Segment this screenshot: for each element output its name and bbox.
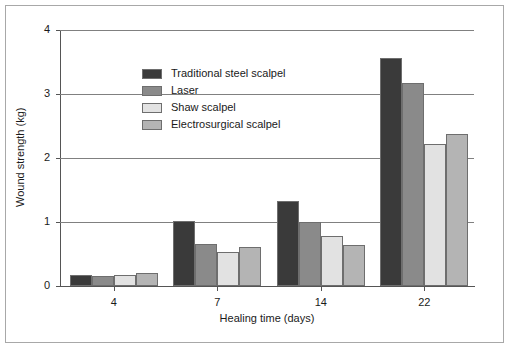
y-axis-label-wrap: Wound strength (kg) bbox=[16, 95, 30, 235]
legend-swatch bbox=[142, 69, 162, 79]
legend-item: Shaw scalpel bbox=[142, 100, 286, 115]
y-tick-label-1: 1 bbox=[24, 216, 50, 227]
y-tick-label-2: 2 bbox=[24, 152, 50, 163]
x-tick-label-22: 22 bbox=[404, 296, 444, 308]
legend-swatch bbox=[142, 86, 162, 96]
bar bbox=[424, 144, 446, 286]
y-tick-label-0: 0 bbox=[24, 280, 50, 291]
y-tick-mark-1 bbox=[56, 222, 60, 223]
bar bbox=[195, 244, 217, 286]
legend-item: Electrosurgical scalpel bbox=[142, 117, 286, 132]
x-tick-mark-22 bbox=[424, 286, 425, 291]
x-tick-mark-4 bbox=[114, 286, 115, 291]
x-tick-label-4: 4 bbox=[94, 296, 134, 308]
x-tick-label-14: 14 bbox=[301, 296, 341, 308]
x-tick-mark-7 bbox=[217, 286, 218, 291]
bar bbox=[217, 252, 239, 286]
bar bbox=[239, 247, 261, 286]
bar bbox=[70, 275, 92, 286]
bar bbox=[136, 273, 158, 286]
bar bbox=[402, 83, 424, 286]
x-axis-line bbox=[60, 286, 475, 287]
legend-label: Shaw scalpel bbox=[171, 102, 236, 113]
gridline-4 bbox=[60, 30, 474, 31]
bar bbox=[380, 58, 402, 286]
x-axis-label: Healing time (days) bbox=[60, 312, 474, 324]
legend-swatch bbox=[142, 120, 162, 130]
legend-swatch bbox=[142, 103, 162, 113]
bar bbox=[321, 236, 343, 286]
bar bbox=[92, 276, 114, 286]
y-tick-label-3: 3 bbox=[24, 88, 50, 99]
legend: Traditional steel scalpelLaserShaw scalp… bbox=[142, 66, 286, 134]
legend-label: Traditional steel scalpel bbox=[171, 68, 286, 79]
x-tick-mark-14 bbox=[321, 286, 322, 291]
legend-label: Electrosurgical scalpel bbox=[171, 119, 280, 130]
legend-label: Laser bbox=[171, 85, 199, 96]
legend-item: Laser bbox=[142, 83, 286, 98]
bar bbox=[277, 201, 299, 286]
y-tick-mark-4 bbox=[56, 30, 60, 31]
figure: Wound strength (kg) Healing time (days) … bbox=[0, 0, 510, 349]
plot-area: 01234 471422 Traditional steel scalpelLa… bbox=[60, 30, 474, 286]
legend-item: Traditional steel scalpel bbox=[142, 66, 286, 81]
bar bbox=[343, 245, 365, 286]
bar bbox=[173, 221, 195, 286]
x-tick-label-7: 7 bbox=[197, 296, 237, 308]
y-tick-label-4: 4 bbox=[24, 24, 50, 35]
bar bbox=[446, 134, 468, 286]
y-tick-mark-0 bbox=[56, 286, 60, 287]
y-tick-mark-2 bbox=[56, 158, 60, 159]
bar bbox=[114, 275, 136, 286]
bar bbox=[299, 222, 321, 286]
y-tick-mark-3 bbox=[56, 94, 60, 95]
